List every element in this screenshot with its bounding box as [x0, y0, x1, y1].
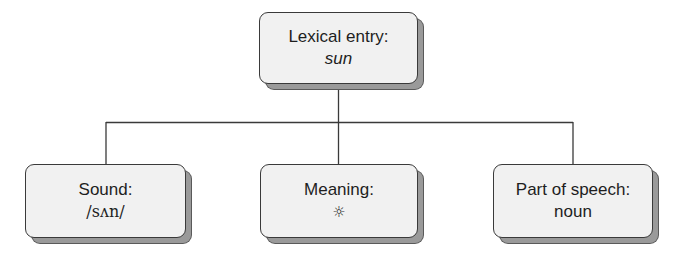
node-label: Part of speech: — [516, 179, 630, 201]
node-part-of-speech: Part of speech: noun — [493, 164, 653, 238]
lexical-entry-diagram: Lexical entry: sun Sound: /sʌn/ Meaning:… — [0, 0, 681, 260]
node-label: Meaning: — [304, 179, 374, 201]
node-label: Lexical entry: — [288, 26, 388, 48]
node-label: Sound: — [79, 179, 133, 201]
node-lexical-entry: Lexical entry: sun — [259, 12, 418, 84]
sun-icon: ☼ — [332, 201, 345, 223]
node-sound: Sound: /sʌn/ — [25, 164, 186, 238]
node-value: sun — [325, 48, 352, 70]
node-value: noun — [554, 201, 592, 223]
node-value: /sʌn/ — [86, 201, 124, 223]
node-meaning: Meaning: ☼ — [260, 164, 418, 238]
